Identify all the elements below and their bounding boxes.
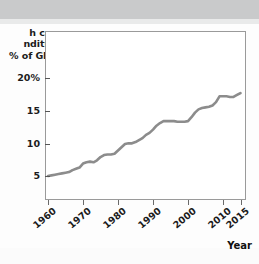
page-texture-band-bottom (0, 248, 259, 264)
x-tick-label-1980: 1980 (100, 205, 129, 231)
x-tick-mark-1960 (48, 200, 49, 205)
x-axis-title: Year (227, 240, 252, 251)
x-tick-label-2000: 2000 (170, 205, 199, 231)
x-tick-label-1960: 1960 (30, 205, 59, 231)
x-tick-mark-1990 (153, 200, 154, 205)
y-tick-label-5: 5 (0, 170, 40, 181)
x-tick-label-1970: 1970 (65, 205, 94, 231)
page-texture-band-top-secondary (0, 19, 259, 24)
plot-area (45, 31, 246, 200)
line-chart-svg (46, 32, 245, 199)
y-tick-mark-10 (45, 144, 50, 145)
y-tick-label-15: 15 (0, 105, 40, 116)
x-tick-mark-2015 (241, 200, 242, 205)
y-tick-label-10: 10 (0, 138, 40, 149)
page-texture-band-top (0, 0, 259, 19)
x-tick-mark-2000 (188, 200, 189, 205)
data-series-line (48, 93, 241, 176)
x-tick-label-1990: 1990 (135, 205, 164, 231)
y-tick-mark-20 (45, 78, 50, 79)
chart-figure: h care nditure % of GDP) 20% 15 10 5 196… (0, 0, 259, 264)
x-tick-mark-2010 (223, 200, 224, 205)
x-tick-mark-1980 (118, 200, 119, 205)
x-tick-mark-1970 (83, 200, 84, 205)
y-tick-mark-5 (45, 176, 50, 177)
y-tick-mark-15 (45, 111, 50, 112)
y-tick-label-20: 20% (0, 72, 40, 83)
